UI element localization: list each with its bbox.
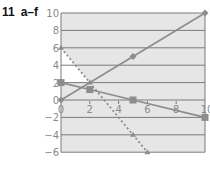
y-tick-label: −4 bbox=[44, 130, 59, 141]
y-tick-label: −2 bbox=[44, 112, 59, 123]
line-chart: 1086420−2−4−60246810 bbox=[0, 0, 210, 170]
y-tick-label: −6 bbox=[44, 147, 59, 158]
square-marker bbox=[86, 86, 93, 93]
y-tick-label: 10 bbox=[46, 8, 59, 19]
x-tick-label: 0 bbox=[58, 104, 64, 115]
square-marker bbox=[202, 114, 209, 121]
square-marker bbox=[58, 79, 65, 86]
x-tick-label: 6 bbox=[144, 104, 150, 115]
x-tick-label: 10 bbox=[201, 104, 210, 115]
square-marker bbox=[130, 97, 137, 104]
x-tick-label: 2 bbox=[87, 104, 93, 115]
y-tick-label: 8 bbox=[53, 25, 59, 36]
y-tick-label: 4 bbox=[53, 60, 59, 71]
y-tick-label: 6 bbox=[53, 43, 59, 54]
